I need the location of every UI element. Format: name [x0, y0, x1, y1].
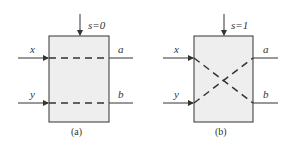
switch-box — [194, 36, 253, 122]
control-label: s=0 — [88, 19, 106, 31]
caption-a: (a) — [71, 126, 82, 138]
output-b-label: b — [263, 88, 269, 100]
panel-a: s=0 x y a b (a) — [18, 14, 133, 138]
control-label: s=1 — [231, 19, 248, 31]
switch-box — [49, 36, 109, 122]
output-a-label: a — [263, 43, 269, 55]
input-y-label: y — [173, 88, 179, 100]
caption-b: (b) — [215, 126, 227, 138]
input-x-label: x — [29, 43, 35, 55]
switch-diagram: s=0 x y a b (a) s=1 x y a b (b) — [0, 0, 292, 146]
input-y-label: y — [29, 88, 35, 100]
output-b-label: b — [118, 88, 124, 100]
panel-b: s=1 x y a b (b) — [163, 14, 278, 138]
output-a-label: a — [118, 43, 124, 55]
input-x-label: x — [173, 43, 179, 55]
